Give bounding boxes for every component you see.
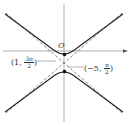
point-label-2-den: 2 — [105, 69, 109, 75]
point-label-1-den: 2 — [27, 63, 31, 69]
x-axis-arrow-icon — [123, 49, 128, 52]
vertex-point-upper — [63, 53, 67, 57]
point-label-1: (1, 3π2) — [11, 56, 37, 69]
point-label-2: (−5, π2) — [84, 62, 113, 75]
point-label-2-prefix: (−5, — [84, 64, 104, 73]
point-label-1-fraction: 3π2 — [24, 56, 34, 69]
origin-label: O — [58, 42, 65, 50]
point-label-2-suffix: ) — [110, 64, 113, 73]
vertex-point-lower — [63, 70, 67, 74]
point-label-1-suffix: ) — [34, 58, 37, 67]
point-label-1-prefix: (1, — [11, 58, 24, 67]
